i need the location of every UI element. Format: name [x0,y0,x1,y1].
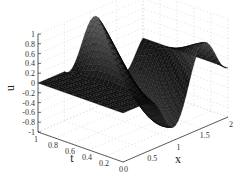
z-tick-label: 0.8 [25,40,35,49]
x-axis-label: x [175,152,181,166]
x-tick-label: 0.5 [147,154,157,163]
t-tick-label: 0 [119,165,123,174]
z-tick-label: 0 [31,79,35,88]
z-tick-label: -0.2 [22,89,35,98]
z-tick-label: -0.4 [22,99,35,108]
x-tick-label: 1.5 [200,131,210,140]
x-tick-label: 2 [229,120,233,129]
z-tick-label: 0.6 [25,50,35,59]
t-tick-label: 0.2 [99,159,109,168]
surface-patch [221,66,228,68]
grid-line [38,0,228,44]
x-tick-label: 1 [177,143,181,152]
t-tick-label: 0.8 [48,141,58,150]
z-axis-label: u [3,85,17,91]
z-tick-label: 0.2 [25,69,35,78]
surface-plot: -1-0.8-0.6-0.4-0.200.20.40.60.8100.20.40… [0,0,245,178]
z-tick-label: 1 [31,30,35,39]
surface [38,16,228,127]
z-tick-label: -0.6 [22,108,35,117]
z-tick-label: 0.4 [25,59,35,68]
z-tick-label: -0.8 [22,118,35,127]
x-tick-label: 0 [124,165,128,174]
t-tick-label: 0.4 [82,153,92,162]
grid-line [38,0,228,34]
t-tick-label: 1 [34,135,38,144]
